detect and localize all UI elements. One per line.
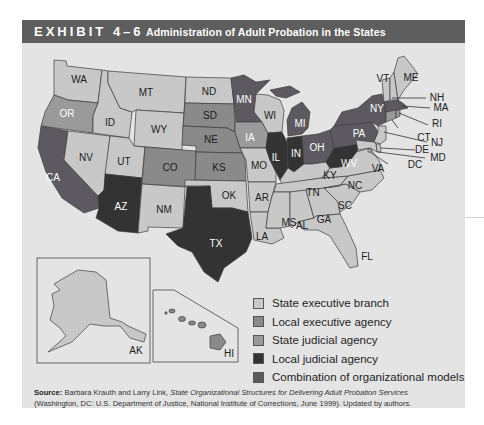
- state-label-in: IN: [291, 148, 301, 159]
- state-label-mt: MT: [139, 87, 153, 98]
- state-label-ca: CA: [46, 172, 60, 183]
- state-label-mn: MN: [236, 94, 252, 105]
- legend-swatch: [253, 372, 264, 383]
- state-label-de: DE: [415, 144, 429, 155]
- state-label-mo: MO: [251, 160, 267, 171]
- state-label-ne: NE: [204, 134, 218, 145]
- state-label-nd: ND: [202, 86, 216, 97]
- state-label-id: ID: [105, 117, 115, 128]
- state-label-fl: FL: [361, 251, 373, 262]
- state-label-la: LA: [256, 231, 269, 242]
- state-label-va: VA: [372, 163, 385, 174]
- legend-swatch: [253, 298, 264, 309]
- source-authors: Barbara Krauth and Larry Link,: [62, 388, 170, 397]
- legend-item-combination: Combination of organizational models: [253, 368, 464, 387]
- state-label-al: AL: [296, 220, 309, 231]
- legend-label: State executive branch: [272, 297, 389, 309]
- state-label-pa: PA: [353, 128, 366, 139]
- legend-item-local-executive: Local executive agency: [253, 313, 464, 332]
- state-label-ia: IA: [245, 132, 255, 143]
- source-citation: Source: Barbara Krauth and Larry Link, S…: [34, 387, 454, 409]
- state-label-ga: GA: [317, 214, 332, 225]
- state-label-or: OR: [60, 108, 75, 119]
- state-label-co: CO: [163, 162, 178, 173]
- state-label-oh: OH: [310, 142, 325, 153]
- state-label-hi: HI: [224, 348, 234, 359]
- state-label-ri: RI: [432, 118, 442, 129]
- source-work-title: State Organizational Structures for Deli…: [170, 388, 407, 397]
- state-ct: [386, 110, 396, 122]
- state-label-md: MD: [430, 152, 446, 163]
- state-label-ny: NY: [370, 103, 384, 114]
- state-label-vt: VT: [377, 73, 390, 84]
- state-label-sc: SC: [338, 200, 352, 211]
- legend-label: Combination of organizational models: [272, 371, 464, 383]
- state-ri: [396, 110, 400, 118]
- source-label: Source:: [34, 388, 62, 397]
- legend-item-state-executive: State executive branch: [253, 294, 464, 313]
- state-label-ct: CT: [417, 132, 430, 143]
- legend-swatch: [253, 316, 264, 327]
- state-label-az: AZ: [115, 201, 128, 212]
- state-label-dc: DC: [408, 159, 422, 170]
- state-label-ky: KY: [323, 170, 337, 181]
- state-label-nv: NV: [79, 152, 93, 163]
- state-label-ut: UT: [117, 156, 130, 167]
- state-label-wy: WY: [151, 124, 167, 135]
- state-label-nj: NJ: [431, 137, 443, 148]
- legend-swatch: [253, 353, 264, 364]
- legend-label: Local executive agency: [272, 316, 392, 328]
- state-label-wv: WV: [341, 158, 357, 169]
- state-label-ak: AK: [129, 345, 143, 356]
- map-legend: State executive branch Local executive a…: [253, 294, 464, 387]
- state-label-ar: AR: [255, 192, 269, 203]
- state-label-ks: KS: [212, 162, 226, 173]
- state-label-tn: TN: [306, 187, 319, 198]
- state-label-me: ME: [404, 72, 419, 83]
- state-label-wi: WI: [264, 110, 276, 121]
- state-label-nc: NC: [348, 180, 362, 191]
- source-details: (Washington, DC: U.S. Department of Just…: [34, 399, 411, 408]
- state-label-sd: SD: [203, 110, 217, 121]
- legend-label: State judicial agency: [272, 334, 377, 346]
- state-label-il: IL: [272, 152, 281, 163]
- state-label-mi: MI: [294, 118, 305, 129]
- state-ak: [48, 270, 146, 352]
- state-label-ms: MS: [282, 217, 297, 228]
- state-label-tx: TX: [210, 238, 223, 249]
- state-label-ok: OK: [222, 190, 237, 201]
- state-dc: [368, 149, 371, 152]
- legend-item-state-judicial: State judicial agency: [253, 331, 464, 350]
- legend-label: Local judicial agency: [272, 353, 378, 365]
- state-label-nm: NM: [156, 204, 172, 215]
- state-label-wa: WA: [71, 74, 87, 85]
- legend-swatch: [253, 335, 264, 346]
- legend-item-local-judicial: Local judicial agency: [253, 350, 464, 369]
- state-label-ma: MA: [434, 102, 449, 113]
